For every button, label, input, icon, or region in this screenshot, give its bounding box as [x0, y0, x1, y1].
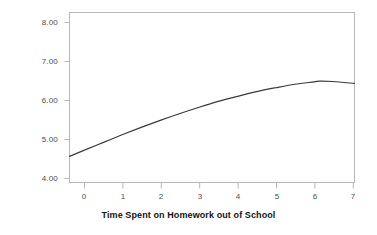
x-tick-label: 2	[159, 192, 164, 201]
plot-frame	[70, 13, 355, 183]
x-tick-label: 1	[121, 192, 126, 201]
x-axis-title: Time Spent on Homework out of School	[0, 210, 377, 220]
y-tick-label: 6.00	[18, 96, 58, 105]
x-tick-label: 6	[313, 192, 318, 201]
x-tick-label: 4	[236, 192, 241, 201]
data-series-line	[70, 81, 355, 156]
y-tick-label: 5.00	[18, 135, 58, 144]
chart-figure: 8.00 7.00 6.00 5.00 4.00 0 1 2 3 4 5 6 7…	[0, 0, 377, 235]
x-tick-label: 7	[351, 192, 356, 201]
x-tick-label: 3	[198, 192, 203, 201]
x-tick-label: 0	[82, 192, 87, 201]
y-tick-label: 8.00	[18, 18, 58, 27]
y-axis-tick-marks	[65, 23, 70, 179]
plot-canvas	[0, 0, 377, 235]
x-axis-tick-marks	[85, 183, 354, 189]
x-tick-label: 5	[275, 192, 280, 201]
y-tick-label: 4.00	[18, 174, 58, 183]
y-tick-label: 7.00	[18, 57, 58, 66]
